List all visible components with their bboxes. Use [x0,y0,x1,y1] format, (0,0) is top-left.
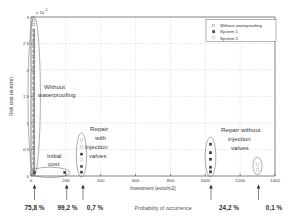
y-axis-exponent: x 10 4 [36,8,48,15]
legend-label-without-waterproofing: Without waterproofing [220,23,262,28]
x-tick-label-5: 1000 [200,178,210,183]
svg-text:waterproofing: waterproofing [37,91,76,98]
x-tick-label-7: 1400 [270,178,280,183]
probability-axis-caption: Probability of occurrence [134,205,191,211]
prob-arrow-2 [81,185,85,201]
probability-labels: 75,8 % 99,2 % 0,7 % Probability of occur… [25,204,283,212]
svg-text:cost: cost [48,160,60,167]
probability-label-1: 99,2 % [58,204,78,212]
svg-text:x 10: x 10 [36,10,45,15]
y-tick-label-1: 0.5 [23,147,30,152]
prob-arrow-0 [33,185,37,201]
x-tick-label-6: 1200 [235,178,245,183]
x-axis-title: Investment (euro/m2) [130,186,176,191]
prob-arrow-3 [209,185,213,201]
x-tick-label-0: 0 [30,178,33,183]
chart-legend[interactable]: Without waterproofing System 1 System 2 [206,20,276,42]
probability-label-0: 75,8 % [25,204,45,212]
svg-text:injection: injection [228,135,251,142]
legend-label-system-1: System 1 [220,29,239,34]
svg-text:Initial: Initial [47,152,61,159]
scatter-chart-figure: 0 0.5 1 1.5 2 2.5 3 x 10 4 Risk cost (eu… [0,0,294,217]
y-axis-title: Risk cost (euro/m) [9,77,14,116]
annotation-initial-cost: Initial cost [47,152,61,167]
x-tick-label-1: 200 [62,178,70,183]
legend-marker-system-1 [213,31,215,33]
x-tick-label-3: 600 [132,178,140,183]
svg-text:Repair: Repair [90,125,108,132]
x-tick-label-2: 400 [97,178,105,183]
y-tick-label-6: 3 [27,15,30,20]
y-tick-label-3: 1.5 [23,94,30,99]
svg-text:with: with [94,134,107,141]
svg-text:valves: valves [231,144,249,151]
legend-label-system-2: System 2 [220,36,239,41]
y-tick-label-5: 2.5 [23,41,30,46]
svg-text:Repair without: Repair without [221,126,261,133]
probability-label-4: 0,1 % [266,204,283,212]
svg-text:valves: valves [89,152,107,159]
prob-arrow-1 [65,185,69,201]
probability-label-2: 0,7 % [87,204,104,212]
probability-label-3: 24,2 % [219,204,239,212]
svg-text:Without: Without [44,83,65,90]
x-tick-label-4: 800 [167,178,175,183]
svg-text:injection: injection [85,143,108,150]
prob-arrow-4 [257,185,261,201]
svg-text:4: 4 [46,8,48,12]
